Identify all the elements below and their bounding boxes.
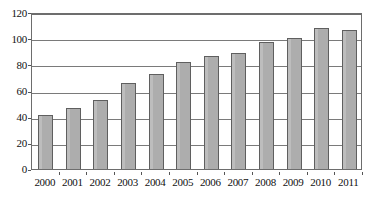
y-tick-label-20: 20 [0, 138, 27, 149]
bar-highlight [232, 54, 235, 169]
bar-highlight [94, 101, 97, 169]
y-tick-label-60: 60 [0, 86, 27, 97]
gridline-100 [32, 40, 361, 41]
y-tick-label-120: 120 [0, 8, 27, 19]
bar-highlight [260, 43, 263, 169]
x-tick-mark-2009 [307, 172, 308, 175]
gridline-20 [32, 145, 361, 146]
bar-2011 [342, 30, 357, 169]
bar-highlight [343, 31, 346, 169]
x-axis: 2000200120022003200420052006200720082009… [31, 172, 362, 197]
plot-area [31, 13, 362, 170]
x-tick-mark-2011 [362, 172, 363, 175]
x-tick-mark-2003 [141, 172, 142, 175]
bar-2000 [38, 115, 53, 169]
y-tick-mark-0 [28, 170, 31, 171]
bar-2007 [231, 53, 246, 169]
bar-2002 [93, 100, 108, 169]
x-tick-mark-2006 [224, 172, 225, 175]
x-tick-mark-2001 [86, 172, 87, 175]
bar-2010 [314, 28, 329, 169]
bar-highlight [205, 57, 208, 169]
bar-highlight [39, 116, 42, 169]
x-tick-mark-2000 [59, 172, 60, 175]
bar-highlight [67, 109, 70, 169]
x-tick-mark-2004 [169, 172, 170, 175]
bar-2004 [149, 74, 164, 170]
y-tick-label-0: 0 [0, 164, 27, 175]
bar-highlight [122, 84, 125, 169]
x-tick-mark-2002 [114, 172, 115, 175]
bar-highlight [315, 29, 318, 169]
bar-2008 [259, 42, 274, 169]
x-tick-mark-2008 [279, 172, 280, 175]
bar-2006 [204, 56, 219, 169]
y-tick-label-40: 40 [0, 112, 27, 123]
x-tick-mark-2005 [197, 172, 198, 175]
y-tick-label-100: 100 [0, 34, 27, 45]
gridline-80 [32, 66, 361, 67]
bar-highlight [177, 63, 180, 169]
gridline-40 [32, 119, 361, 120]
bar-chart: 120 100 80 60 40 20 0 200020012002200320… [0, 0, 371, 197]
bar-2009 [287, 38, 302, 169]
gridline-60 [32, 93, 361, 94]
bar-2001 [66, 108, 81, 169]
bar-2003 [121, 83, 136, 169]
bar-2005 [176, 62, 191, 169]
bar-highlight [150, 75, 153, 170]
y-tick-label-80: 80 [0, 60, 27, 71]
x-tick-mark-2010 [334, 172, 335, 175]
bar-highlight [288, 39, 291, 169]
x-tick-label-2011: 2011 [331, 176, 365, 188]
x-tick-mark-2007 [252, 172, 253, 175]
